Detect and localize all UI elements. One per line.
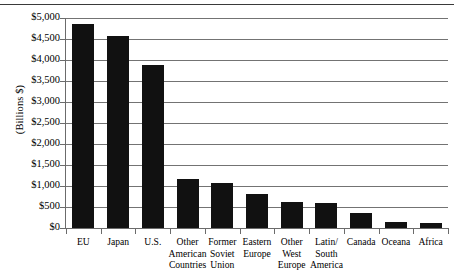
- bar: [246, 194, 268, 228]
- y-axis-tick-label: $4,500: [0, 32, 60, 43]
- y-axis-title: (Billions $): [14, 45, 25, 175]
- x-axis-tick: [205, 228, 206, 234]
- bar: [281, 202, 303, 228]
- x-axis-tick: [101, 228, 102, 234]
- bar: [142, 65, 164, 228]
- x-axis-tick: [274, 228, 275, 234]
- bar: [211, 183, 233, 228]
- y-axis-tick-label: $2,500: [0, 116, 60, 127]
- y-axis-tick-label: $0: [0, 221, 60, 232]
- y-axis-tick-label: $3,500: [0, 74, 60, 85]
- bar: [315, 203, 337, 228]
- x-axis-tick: [413, 228, 414, 234]
- bar: [420, 223, 442, 228]
- x-axis-tick: [379, 228, 380, 234]
- y-axis-tick-label: $500: [0, 200, 60, 211]
- figure-top-border: [0, 4, 454, 5]
- x-axis-tick: [448, 228, 449, 234]
- y-axis-tick-label: $4,000: [0, 53, 60, 64]
- bar: [350, 213, 372, 228]
- x-axis-tick-label: Africa: [410, 236, 451, 248]
- x-axis-tick: [66, 228, 67, 234]
- bar: [72, 24, 94, 228]
- x-axis-tick: [170, 228, 171, 234]
- y-axis-tick-label: $1,000: [0, 179, 60, 190]
- plot-area: [66, 18, 448, 228]
- y-axis-tick-label: $5,000: [0, 11, 60, 22]
- x-axis-line: [66, 228, 448, 229]
- x-axis-tick: [344, 228, 345, 234]
- x-axis-tick: [240, 228, 241, 234]
- y-axis-tick-label: $2,000: [0, 137, 60, 148]
- bar: [177, 179, 199, 228]
- bar: [385, 222, 407, 228]
- x-axis-tick: [309, 228, 310, 234]
- bar-chart-figure: (Billions $) $5,000$4,500$4,000$3,500$3,…: [0, 0, 454, 270]
- y-axis-tick-label: $1,500: [0, 158, 60, 169]
- y-axis-tick-label: $3,000: [0, 95, 60, 106]
- bar: [107, 36, 129, 228]
- x-axis-tick: [135, 228, 136, 234]
